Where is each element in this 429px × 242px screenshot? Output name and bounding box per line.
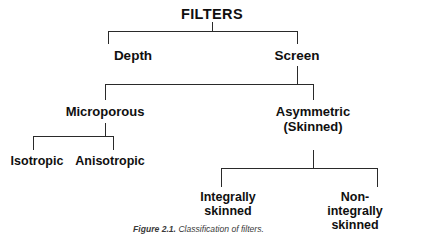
edge-level2-drop-microporous [105, 84, 106, 100]
node-screen: Screen [274, 48, 319, 63]
edge-level2-bar [105, 84, 314, 85]
figure-caption: Figure 2.1. Classification of filters. [133, 224, 264, 234]
edge-microporous-drop-anisotropic [113, 136, 114, 150]
node-filters: FILTERS [181, 6, 243, 22]
figure-caption-label: Figure 2.1. [133, 224, 176, 234]
node-non-integrally-skinned: Non-integrally skinned [318, 190, 392, 232]
node-anisotropic: Anisotropic [75, 154, 144, 168]
figure-classification-of-filters: FILTERS Depth Screen Microporous Asymmet… [0, 0, 429, 242]
node-depth: Depth [114, 48, 152, 63]
edge-microporous-drop-isotropic [33, 136, 34, 150]
node-asymmetric-skinned: Asymmetric (Skinned) [276, 105, 350, 134]
edge-asymmetric-bar [221, 168, 378, 169]
edge-microporous-bar [33, 136, 114, 137]
edge-asymmetric-drop-integrally [221, 168, 222, 187]
edge-screen-stem [297, 66, 298, 84]
edge-level1-drop-screen [297, 31, 298, 44]
node-isotropic: Isotropic [11, 154, 64, 168]
node-microporous: Microporous [66, 105, 145, 120]
node-integrally-skinned: Integrally skinned [200, 190, 256, 218]
edge-level1-bar [108, 31, 298, 32]
edge-asymmetric-drop-non-integrally [377, 168, 378, 187]
edge-microporous-stem [105, 123, 106, 136]
edge-level1-drop-depth [108, 31, 109, 44]
edge-asymmetric-stem [313, 150, 314, 168]
edge-level2-drop-asymmetric [313, 84, 314, 100]
figure-caption-text: Classification of filters. [178, 224, 264, 234]
